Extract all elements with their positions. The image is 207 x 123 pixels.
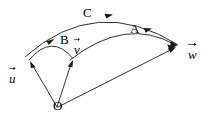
arc-label-C: C (83, 6, 92, 19)
origin-label-O: O (53, 99, 62, 112)
vector-arrow-accent-v (74, 37, 80, 41)
arc-C-path (26, 14, 179, 57)
vector-label-w-text: w (188, 48, 197, 61)
diagram-canvas (0, 0, 207, 123)
vector-label-w: w (188, 42, 197, 62)
arc-label-B: B (60, 33, 69, 46)
vector-v-arrowhead (68, 60, 73, 67)
arc-label-A: A (130, 22, 139, 35)
vector-arrow-accent-w (188, 42, 197, 46)
vector-label-v-text: v (74, 43, 80, 56)
vector-arrow-accent-u (9, 66, 16, 70)
vector-u-arrowhead (30, 61, 36, 68)
vector-label-v: v (74, 37, 80, 57)
vector-label-u-text: u (9, 72, 16, 85)
vector-diagram-figure: u v w B A C O (0, 0, 207, 123)
arc-C-arrowhead (105, 14, 113, 19)
vector-label-u: u (9, 66, 16, 86)
